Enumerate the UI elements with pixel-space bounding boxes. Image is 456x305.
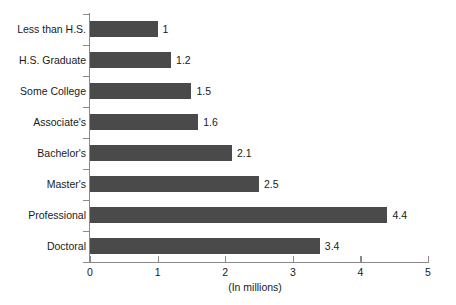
plot-area: 11.21.51.62.12.54.43.4	[90, 14, 428, 262]
x-axis-tick-label: 0	[75, 266, 105, 278]
bar-value-label: 1.5	[191, 83, 211, 99]
bar-value-label: 2.1	[232, 145, 252, 161]
bar-value-label: 1.2	[171, 52, 191, 68]
x-axis-tick-label: 1	[143, 266, 173, 278]
x-axis-title-text: (In millions)	[228, 281, 282, 293]
x-axis-tick-label: 5	[413, 266, 443, 278]
category-label: Less than H.S.	[0, 14, 86, 45]
bar-value-label: 4.4	[387, 207, 407, 223]
category-label: Some College	[0, 76, 86, 107]
bar	[90, 21, 158, 37]
x-axis-title: (In millions)	[0, 281, 456, 293]
bar	[90, 114, 198, 130]
bar-value-label: 3.4	[320, 238, 340, 254]
bar-row: 4.4	[90, 200, 428, 231]
bar	[90, 238, 320, 254]
category-label: Master's	[0, 169, 86, 200]
category-label: Professional	[0, 200, 86, 231]
y-axis-tick	[83, 262, 89, 263]
bar	[90, 83, 191, 99]
bar-row: 2.1	[90, 138, 428, 169]
category-label: Doctoral	[0, 231, 86, 262]
x-axis-tick-label: 4	[345, 266, 375, 278]
bar	[90, 145, 232, 161]
bar-row: 1.2	[90, 45, 428, 76]
bar-row: 1.6	[90, 107, 428, 138]
bar-value-label: 1	[158, 21, 169, 37]
bar	[90, 176, 259, 192]
x-axis-line	[89, 262, 429, 263]
x-axis-tick	[428, 256, 429, 262]
x-axis-tick-label: 3	[278, 266, 308, 278]
bar-row: 2.5	[90, 169, 428, 200]
category-label: Associate's	[0, 107, 86, 138]
bar-value-label: 2.5	[259, 176, 279, 192]
bar-chart: Less than H.S.H.S. GraduateSome CollegeA…	[0, 0, 456, 305]
bar-row: 1.5	[90, 76, 428, 107]
bar-row: 1	[90, 14, 428, 45]
bar	[90, 207, 387, 223]
bar-value-label: 1.6	[198, 114, 218, 130]
category-label: H.S. Graduate	[0, 45, 86, 76]
bar	[90, 52, 171, 68]
bar-row: 3.4	[90, 231, 428, 262]
category-label: Bachelor's	[0, 138, 86, 169]
x-axis-tick-label: 2	[210, 266, 240, 278]
